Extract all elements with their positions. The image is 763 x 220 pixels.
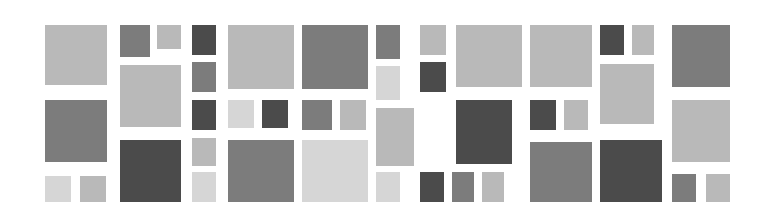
mosaic-tile	[120, 65, 181, 127]
mosaic-tile	[45, 176, 71, 202]
mosaic-tile	[376, 172, 400, 202]
mosaic-tile	[706, 174, 730, 202]
mosaic-tile	[120, 140, 181, 202]
mosaic-tile	[600, 64, 654, 124]
mosaic-tile	[157, 25, 181, 49]
mosaic-tile	[192, 138, 216, 166]
mosaic-tile	[302, 140, 368, 202]
mosaic-tile	[600, 25, 624, 55]
mosaic-tile	[120, 25, 150, 57]
mosaic-tile	[192, 100, 216, 130]
mosaic-tile	[530, 25, 592, 87]
mosaic-tile	[376, 108, 414, 166]
mosaic-tile	[672, 174, 696, 202]
mosaic-tile	[45, 25, 107, 85]
mosaic-tile	[302, 100, 332, 130]
mosaic-tile	[228, 140, 294, 202]
mosaic-tile	[672, 100, 730, 162]
mosaic-tile	[192, 62, 216, 92]
mosaic-tile	[456, 25, 522, 87]
mosaic-tile	[420, 62, 446, 92]
mosaic-chart-canvas	[0, 0, 763, 220]
mosaic-tile	[632, 25, 654, 55]
mosaic-tile	[482, 172, 504, 202]
mosaic-tile	[262, 100, 288, 128]
mosaic-tile	[192, 172, 216, 202]
mosaic-tile	[302, 25, 368, 89]
mosaic-tile	[228, 25, 294, 89]
mosaic-tile	[600, 140, 662, 202]
mosaic-tile	[452, 172, 474, 202]
mosaic-tile	[564, 100, 588, 130]
mosaic-tile	[456, 100, 512, 164]
mosaic-tile	[192, 25, 216, 55]
mosaic-tile	[672, 25, 730, 87]
mosaic-tile	[530, 142, 592, 202]
mosaic-tile	[420, 25, 446, 55]
mosaic-tile	[376, 25, 400, 59]
mosaic-tile	[376, 66, 400, 100]
mosaic-tile	[420, 172, 444, 202]
mosaic-tile	[80, 176, 106, 202]
mosaic-tile	[530, 100, 556, 130]
mosaic-tile	[45, 100, 107, 162]
mosaic-tile	[228, 100, 254, 128]
mosaic-tile	[340, 100, 366, 130]
